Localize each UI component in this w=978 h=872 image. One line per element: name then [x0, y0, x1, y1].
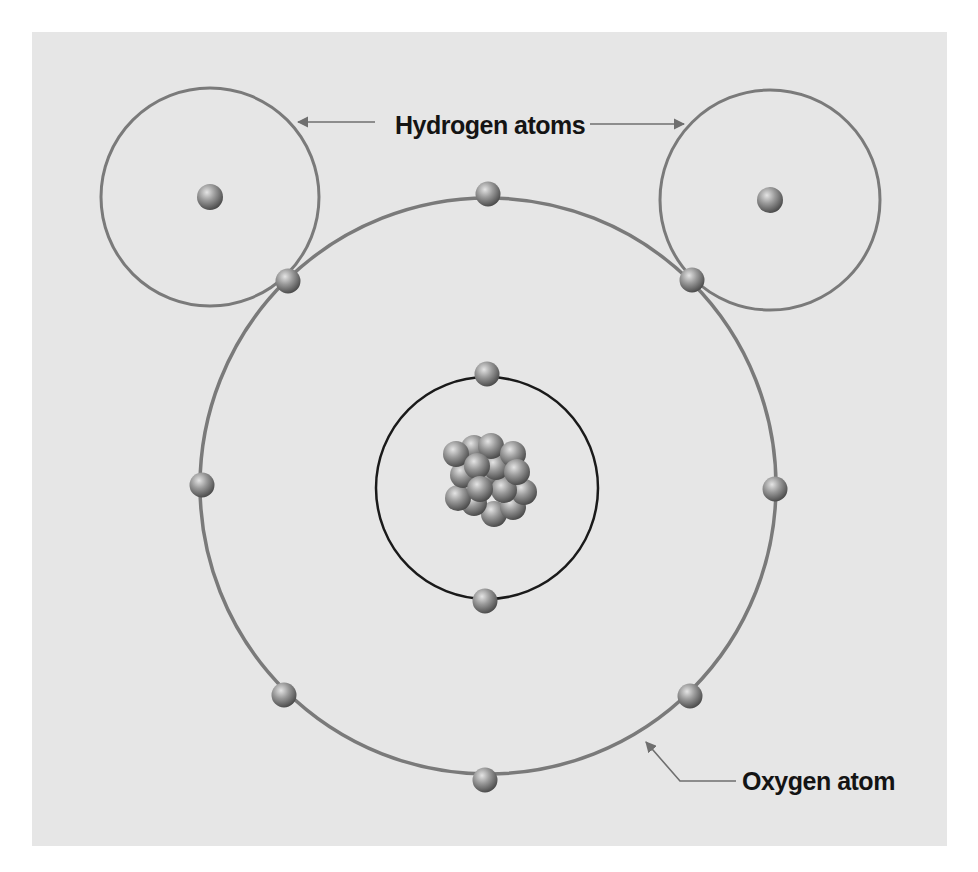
hydrogen-nucleus-right: [757, 187, 783, 213]
hydrogen-atoms-label: Hydrogen atoms: [395, 111, 585, 139]
electron: [475, 362, 500, 387]
oxygen-nucleus: [443, 433, 537, 527]
electron-shared-right: [680, 268, 705, 293]
electron: [473, 768, 498, 793]
water-molecule-diagram: Hydrogen atoms Oxygen atom: [0, 0, 978, 872]
electron: [763, 477, 788, 502]
electron: [473, 589, 498, 614]
oxygen-leader: [646, 742, 736, 781]
electron-shared-left: [276, 269, 301, 294]
electron: [678, 684, 703, 709]
electron: [476, 182, 501, 207]
electron: [272, 683, 297, 708]
oxygen-atom-label: Oxygen atom: [742, 767, 895, 795]
hydrogen-nucleus-left: [197, 184, 223, 210]
electron: [190, 473, 215, 498]
